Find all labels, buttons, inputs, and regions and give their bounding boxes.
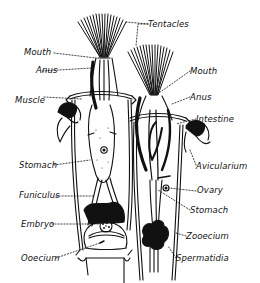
label-stomach-right: Stomach — [190, 206, 228, 215]
label-zooecium: Zooecium — [186, 232, 229, 241]
label-ovary: Ovary — [197, 186, 223, 195]
tentacles-left — [78, 14, 126, 57]
label-spermatidia: Spermatidia — [176, 254, 229, 263]
label-funiculus: Funiculus — [19, 191, 60, 200]
label-ooecium: Ooecium — [21, 254, 60, 263]
label-anus-right: Anus — [190, 93, 211, 102]
bryozoan-diagram: Tentacles Mouth Anus Muscle Stomach Funi… — [0, 0, 260, 283]
label-tentacles: Tentacles — [148, 20, 189, 29]
tentacles-right — [128, 45, 173, 95]
label-anus-left: Anus — [36, 66, 57, 75]
label-stomach-left: Stomach — [19, 161, 57, 170]
label-mouth-right: Mouth — [190, 67, 217, 76]
label-mouth-left: Mouth — [24, 48, 51, 57]
label-embryo: Embryo — [21, 220, 54, 229]
label-intestine: Intestine — [196, 115, 234, 124]
label-avicularium: Avicularium — [196, 162, 247, 171]
label-muscle: Muscle — [15, 96, 45, 105]
